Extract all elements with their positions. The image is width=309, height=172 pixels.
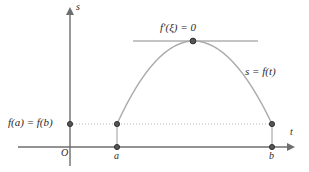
y-axis-label: s [76, 2, 80, 12]
point-vertex-xi [190, 38, 196, 44]
point-a-on-axis [114, 144, 119, 149]
tangent-label-derivative-zero: f′(ξ) = 0 [160, 22, 196, 33]
value-label-fa-equals-fb: f(a) = f(b) [8, 117, 53, 128]
point-b-on-curve [269, 121, 274, 126]
curve-label-s-equals-f-of-t: s = f(t) [245, 66, 276, 77]
x-axis-label: t [290, 127, 293, 137]
tick-label-a: a [114, 151, 119, 161]
point-y-intercept-value [67, 121, 72, 126]
figure-canvas [0, 0, 309, 172]
point-b-on-axis [269, 144, 274, 149]
origin-label: O [61, 148, 68, 158]
point-a-on-curve [114, 121, 119, 126]
rolles-theorem-figure: s t O a b f(a) = f(b) f′(ξ) = 0 s = f(t) [0, 0, 309, 172]
function-curve [117, 41, 272, 124]
tick-label-b: b [269, 151, 274, 161]
